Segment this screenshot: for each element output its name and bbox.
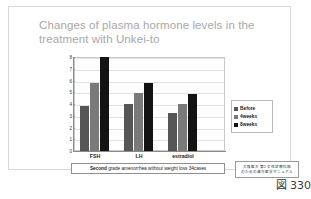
x-category-label: estradiol [159, 153, 207, 159]
bar-lh-before [124, 104, 133, 151]
bar-lh-4weeks [134, 93, 143, 151]
legend-swatch-icon [234, 123, 238, 127]
figure-number: 図 330 [276, 176, 310, 192]
y-tick-mark [73, 151, 75, 152]
y-axis-tick-labels: 012345678 [53, 57, 72, 151]
y-tick-mark [73, 104, 75, 105]
y-tick-label: 8 [54, 55, 72, 60]
y-tick-label: 0 [54, 149, 72, 154]
legend-item: 8weeks [234, 121, 269, 128]
legend-label: Before [240, 106, 255, 111]
legend-swatch-icon [234, 107, 238, 111]
bar-estradiol-4weeks [178, 104, 187, 151]
x-axis-line [73, 151, 226, 152]
x-category-label: FSH [71, 153, 119, 159]
y-tick-label: 6 [54, 78, 72, 83]
source-line-2: のための漢方医学マニュアル [241, 170, 293, 175]
x-category-label: LH [115, 153, 163, 159]
bar-group [168, 57, 198, 151]
y-tick-mark [73, 69, 75, 70]
caption-rest: grade amenorrhea without weight loss 34c… [107, 166, 206, 171]
y-tick-mark [73, 57, 75, 58]
y-tick-label: 7 [54, 66, 72, 71]
y-tick-label: 2 [54, 125, 72, 130]
bar-fsh-8weeks [100, 57, 109, 151]
chart-title: Changes of plasma hormone levels in the … [39, 18, 279, 46]
legend-swatch-icon [234, 115, 238, 119]
y-tick-label: 1 [54, 137, 72, 142]
y-tick-mark [73, 116, 75, 117]
bar-group [80, 57, 110, 151]
y-tick-label: 3 [54, 113, 72, 118]
bar-group [124, 57, 154, 151]
bar-lh-8weeks [144, 83, 153, 151]
legend-label: 4weeks [240, 114, 257, 119]
y-tick-mark [73, 139, 75, 140]
bar-estradiol-8weeks [188, 94, 197, 151]
slide-canvas: Changes of plasma hormone levels in the … [8, 6, 291, 170]
y-tick-label: 4 [54, 102, 72, 107]
y-tick-mark [73, 81, 75, 82]
bar-fsh-before [80, 106, 89, 151]
caption-box: Second grade amenorrhea without weight l… [71, 163, 225, 174]
y-tick-label: 5 [54, 90, 72, 95]
bar-series-container [74, 57, 225, 151]
legend-item: Before [234, 105, 269, 112]
legend-label: 8weeks [240, 122, 257, 127]
caption-bold: Second [90, 166, 107, 171]
legend-item: 4weeks [234, 113, 269, 120]
bar-estradiol-before [168, 113, 177, 151]
y-tick-mark [73, 92, 75, 93]
caption-text: Second grade amenorrhea without weight l… [90, 166, 206, 171]
y-tick-mark [73, 128, 75, 129]
chart-legend: Before4weeks8weeks [231, 100, 273, 133]
bar-fsh-4weeks [90, 83, 99, 151]
